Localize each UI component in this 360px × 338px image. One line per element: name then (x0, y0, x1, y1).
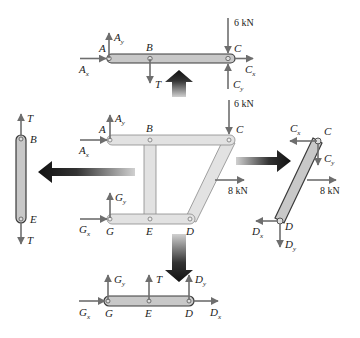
diagram-svg: Ay A Ax B T 6 kN C Cx Cy (0, 0, 360, 338)
point-c-label: C (234, 42, 242, 54)
frame-force-ay-label: Ay (114, 112, 126, 127)
explode-arrow-up-icon (165, 70, 193, 97)
explode-arrow-right-icon (236, 150, 291, 172)
explode-arrow-left-icon (38, 161, 135, 183)
member-abc (107, 54, 235, 63)
left-member-fbd: T B E T (16, 112, 37, 246)
frame-point-g-label: G (106, 225, 114, 237)
frame-load-8kn-label: 8 kN (228, 185, 248, 196)
force-ay-label: Ay (113, 31, 125, 46)
right-member-fbd: C Cx Cy 8 kN Dx D Dy (251, 122, 340, 253)
frame-point-d-label: D (185, 225, 194, 237)
member-cd (185, 140, 235, 222)
bottom-member-fbd: Gy Gx G T E Dy Dx D (79, 273, 222, 321)
point-b-label: B (146, 41, 153, 53)
pin-d-frame (188, 217, 192, 221)
right-force-dy-label: Dy (284, 238, 297, 253)
force-cx-label: Cx (245, 63, 256, 78)
left-force-t-top-label: T (27, 112, 34, 124)
frame-point-b-label: B (146, 122, 153, 134)
frame-force-gx-label: Gx (79, 223, 91, 238)
right-point-c-label: C (324, 125, 332, 137)
force-ax-label: Ax (78, 63, 90, 78)
frame-force-ax-label: Ax (78, 144, 90, 159)
point-a-label: A (98, 42, 106, 54)
force-cy-label: Cy (233, 78, 244, 93)
left-force-t-bottom-label: T (27, 234, 34, 246)
pin-b-left (19, 137, 23, 141)
bottom-force-dy-label: Dy (194, 273, 207, 288)
bottom-force-gx-label: Gx (79, 306, 91, 321)
right-load-8kn-label: 8 kN (320, 185, 340, 196)
pin-c-frame (227, 138, 231, 142)
bottom-force-dx-label: Dx (209, 306, 222, 321)
frame-point-e-label: E (145, 225, 153, 237)
left-point-e-label: E (29, 213, 37, 225)
force-t-label: T (155, 78, 162, 90)
right-point-d-label: D (284, 220, 293, 232)
member-be (144, 138, 156, 216)
bottom-point-d-label: D (184, 307, 193, 319)
frame-point-a-label: A (98, 123, 106, 135)
pin-b-frame (148, 138, 152, 142)
member-be-isolated (16, 135, 26, 223)
bottom-point-g-label: G (105, 307, 113, 319)
bottom-force-gy-label: Gy (114, 273, 126, 288)
pin-e-left (19, 217, 23, 221)
member-abc-frame (107, 135, 235, 145)
frame-fbd-diagram: Ay A Ax B T 6 kN C Cx Cy (0, 0, 360, 338)
bottom-force-t-label: T (156, 273, 163, 285)
right-force-cx-label: Cx (290, 122, 301, 137)
pin-e-frame (148, 217, 152, 221)
frame-point-c-label: C (236, 123, 244, 135)
frame-force-gy-label: Gy (115, 191, 127, 206)
load-6kn-label: 6 kN (234, 17, 254, 28)
explode-arrow-down-icon (165, 234, 193, 282)
right-force-dx-label: Dx (251, 225, 264, 240)
bottom-point-e-label: E (144, 307, 152, 319)
right-force-cy-label: Cy (324, 152, 335, 167)
pin-c (226, 56, 230, 60)
frame-load-6kn-label: 6 kN (234, 98, 254, 109)
left-point-b-label: B (30, 133, 37, 145)
